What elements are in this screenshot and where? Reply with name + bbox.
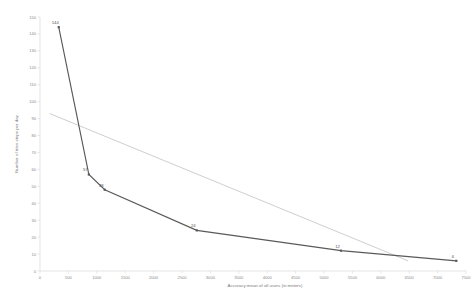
y-tick-label: 150 [29, 15, 37, 20]
x-axis-title: Accuracy mean of all users (in meters) [228, 283, 303, 288]
y-axis: 0102030405060708090100110120130140150 Nu… [14, 15, 40, 274]
x-tick-label: 2000 [149, 275, 159, 280]
data-series: 144574824126 [52, 20, 458, 262]
x-tick-label: 6000 [376, 275, 386, 280]
data-point-marker [104, 189, 106, 191]
data-point-label: 144 [52, 20, 60, 25]
y-tick-label: 120 [29, 65, 37, 70]
x-tick-label: 7500 [461, 275, 471, 280]
data-point-label: 57 [83, 167, 88, 172]
x-tick-label: 6500 [405, 275, 415, 280]
x-tick-label: 4500 [291, 275, 301, 280]
y-axis-title: Number of tries steps per day [14, 114, 19, 172]
data-point-label: 24 [191, 223, 196, 228]
x-axis-ticks: 0500100015002000250030003500400045005000… [39, 271, 471, 280]
x-tick-label: 500 [65, 275, 73, 280]
y-tick-label: 30 [31, 218, 36, 223]
y-tick-label: 130 [29, 48, 37, 53]
y-tick-label: 0 [34, 269, 37, 274]
data-point-label: 6 [452, 254, 455, 259]
x-tick-label: 1500 [121, 275, 131, 280]
y-tick-label: 60 [31, 167, 36, 172]
x-tick-label: 3000 [206, 275, 216, 280]
y-tick-label: 110 [29, 82, 36, 87]
x-tick-label: 7000 [433, 275, 443, 280]
line-chart: 0102030405060708090100110120130140150 Nu… [0, 0, 474, 303]
y-tick-label: 20 [31, 235, 36, 240]
x-tick-label: 4000 [263, 275, 273, 280]
x-tick-label: 5000 [319, 275, 329, 280]
data-point-label: 48 [99, 183, 104, 188]
y-tick-label: 90 [31, 116, 36, 121]
y-tick-label: 50 [31, 184, 36, 189]
data-point-marker [340, 250, 342, 252]
data-point-marker [455, 260, 457, 262]
data-point-marker [58, 26, 60, 28]
x-tick-label: 5500 [348, 275, 358, 280]
series-path [59, 27, 457, 261]
x-tick-label: 1000 [92, 275, 102, 280]
y-tick-label: 40 [31, 201, 36, 206]
data-point-label: 12 [335, 244, 340, 249]
y-axis-ticks: 0102030405060708090100110120130140150 [29, 15, 40, 274]
x-axis: 0500100015002000250030003500400045005000… [39, 271, 471, 288]
series-markers [58, 26, 458, 262]
x-tick-label: 0 [39, 275, 42, 280]
x-tick-label: 3500 [234, 275, 244, 280]
data-point-marker [196, 229, 198, 231]
y-tick-label: 10 [31, 252, 36, 257]
chart-container: 0102030405060708090100110120130140150 Nu… [0, 0, 474, 303]
x-tick-label: 2500 [177, 275, 187, 280]
y-tick-label: 70 [31, 150, 36, 155]
y-tick-label: 100 [29, 99, 37, 104]
y-tick-label: 80 [31, 133, 36, 138]
y-tick-label: 140 [29, 31, 37, 36]
data-point-marker [88, 173, 90, 175]
